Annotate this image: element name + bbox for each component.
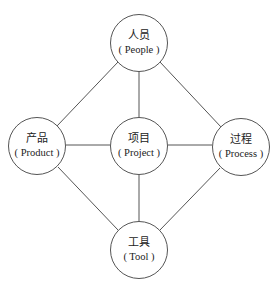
node-tool: 工具 ( Tool ) bbox=[110, 221, 168, 279]
node-people-zh-label: 人员 bbox=[128, 29, 151, 43]
edge-process-tool bbox=[160, 168, 220, 230]
node-tool-en-label: ( Tool ) bbox=[123, 250, 154, 264]
node-project: 项目 ( Project ) bbox=[110, 117, 168, 175]
node-project-zh-label: 项目 bbox=[128, 132, 151, 146]
node-people: 人员 ( People ) bbox=[110, 14, 168, 72]
node-product-en-label: ( Product ) bbox=[15, 146, 60, 160]
diagram-canvas: 人员 ( People ) 产品 ( Product ) 项目 ( Projec… bbox=[0, 0, 277, 286]
node-tool-zh-label: 工具 bbox=[128, 236, 151, 250]
node-product: 产品 ( Product ) bbox=[8, 117, 66, 175]
node-process: 过程 ( Process ) bbox=[212, 118, 270, 176]
edge-product-tool bbox=[58, 167, 118, 230]
edge-people-process bbox=[160, 62, 221, 127]
node-process-en-label: ( Process ) bbox=[219, 147, 263, 161]
node-project-en-label: ( Project ) bbox=[118, 146, 160, 160]
node-product-zh-label: 产品 bbox=[26, 132, 49, 146]
node-people-en-label: ( People ) bbox=[119, 43, 160, 57]
edge-people-product bbox=[57, 62, 118, 126]
node-process-zh-label: 过程 bbox=[230, 133, 253, 147]
